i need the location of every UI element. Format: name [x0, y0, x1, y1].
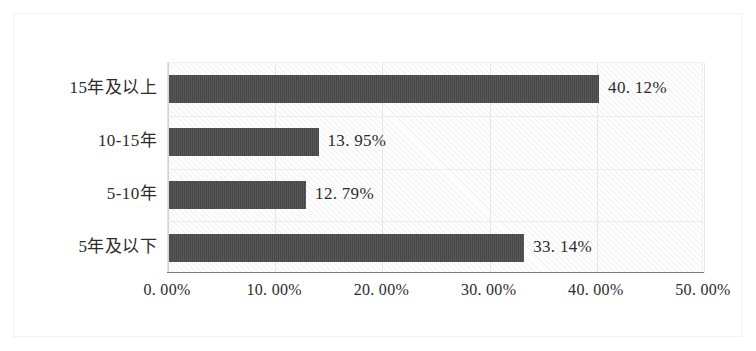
x-tick-label: 0. 00% — [143, 282, 190, 298]
x-tick-label: 50. 00% — [675, 282, 730, 298]
x-tick-label: 30. 00% — [461, 282, 516, 298]
category-separator — [168, 169, 702, 170]
bar-chart-figure: 15年及以上10-15年5-10年5年及以下 40. 12%13. 95%12.… — [0, 0, 756, 351]
data-label: 33. 14% — [533, 238, 592, 255]
category-label: 5-10年 — [0, 185, 157, 202]
data-label: 12. 79% — [315, 185, 374, 202]
category-label: 5年及以下 — [0, 238, 157, 255]
category-separator — [168, 116, 702, 117]
bar[interactable] — [169, 181, 306, 209]
x-tick-label: 10. 00% — [246, 282, 301, 298]
x-tick-label: 20. 00% — [354, 282, 409, 298]
x-axis-line — [167, 272, 704, 273]
category-separator — [168, 221, 702, 222]
category-label: 10-15年 — [0, 132, 157, 149]
x-tick-label: 40. 00% — [568, 282, 623, 298]
bar[interactable] — [169, 234, 524, 262]
data-label: 13. 95% — [328, 132, 387, 149]
bar[interactable] — [169, 128, 319, 156]
gridline-50 — [704, 63, 705, 273]
category-label: 15年及以上 — [0, 79, 157, 96]
bar[interactable] — [169, 75, 599, 103]
data-label: 40. 12% — [608, 79, 667, 96]
